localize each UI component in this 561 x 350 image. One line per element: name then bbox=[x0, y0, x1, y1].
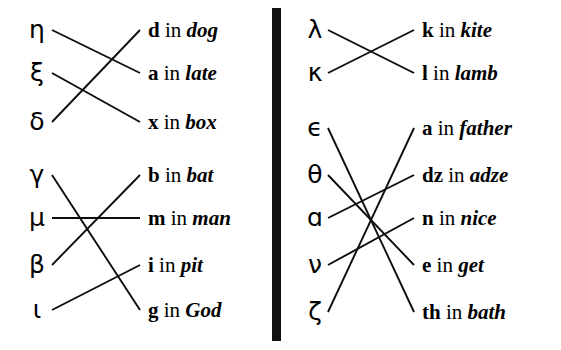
greek-letter: ϵ bbox=[300, 113, 330, 143]
gloss-connector-word: in bbox=[159, 110, 186, 134]
figure-canvas: ηξδd in doga in latex in boxγμβιb in bat… bbox=[0, 0, 561, 350]
greek-letter: ι bbox=[22, 295, 52, 325]
pronunciation-gloss: x in box bbox=[148, 107, 217, 137]
matching-line bbox=[328, 30, 414, 73]
gloss-symbol: e bbox=[422, 253, 431, 277]
matching-line bbox=[52, 265, 140, 310]
matching-line bbox=[328, 218, 414, 265]
gloss-example-word: man bbox=[192, 206, 231, 230]
greek-letter: ξ bbox=[22, 58, 52, 88]
matching-line bbox=[328, 128, 414, 312]
gloss-symbol: g bbox=[148, 298, 159, 322]
greek-letter: θ bbox=[300, 160, 330, 190]
greek-letter: β bbox=[22, 250, 52, 280]
gloss-connector-word: in bbox=[434, 18, 461, 42]
gloss-symbol: n bbox=[422, 206, 434, 230]
matching-line bbox=[328, 30, 414, 73]
gloss-connector-word: in bbox=[428, 61, 455, 85]
gloss-example-word: late bbox=[185, 61, 217, 85]
matching-line bbox=[328, 175, 414, 218]
left-panel: ηξδd in doga in latex in boxγμβιb in bat… bbox=[0, 0, 272, 350]
gloss-symbol: a bbox=[148, 61, 159, 85]
pronunciation-gloss: k in kite bbox=[422, 15, 492, 45]
pronunciation-gloss: b in bat bbox=[148, 160, 213, 190]
greek-letter: μ bbox=[22, 203, 52, 233]
pronunciation-gloss: g in God bbox=[148, 295, 222, 325]
gloss-example-word: get bbox=[458, 253, 484, 277]
matching-line bbox=[328, 128, 414, 312]
gloss-symbol: a bbox=[422, 116, 433, 140]
gloss-connector-word: in bbox=[441, 300, 468, 324]
gloss-connector-word: in bbox=[433, 116, 460, 140]
gloss-symbol: b bbox=[148, 163, 160, 187]
greek-letter: γ bbox=[22, 160, 52, 190]
pronunciation-gloss: a in late bbox=[148, 58, 217, 88]
greek-letter: ν bbox=[300, 250, 330, 280]
gloss-example-word: kite bbox=[461, 18, 493, 42]
matching-line bbox=[328, 175, 414, 265]
pronunciation-gloss: i in pit bbox=[148, 250, 203, 280]
gloss-symbol: th bbox=[422, 300, 441, 324]
panel-divider bbox=[272, 8, 281, 341]
matching-line bbox=[52, 175, 140, 265]
gloss-symbol: x bbox=[148, 110, 159, 134]
gloss-connector-word: in bbox=[434, 206, 461, 230]
gloss-example-word: lamb bbox=[455, 61, 498, 85]
matching-line bbox=[52, 175, 140, 310]
matching-line bbox=[52, 30, 140, 73]
gloss-example-word: God bbox=[185, 298, 221, 322]
pronunciation-gloss: m in man bbox=[148, 203, 231, 233]
greek-letter: ɑ bbox=[300, 203, 330, 233]
gloss-connector-word: in bbox=[431, 253, 458, 277]
greek-letter: δ bbox=[22, 107, 52, 137]
gloss-symbol: dz bbox=[422, 163, 443, 187]
gloss-example-word: bat bbox=[187, 163, 214, 187]
right-panel: λκk in kitel in lambϵθɑνζa in fatherdz i… bbox=[288, 0, 561, 350]
pronunciation-gloss: l in lamb bbox=[422, 58, 498, 88]
gloss-example-word: pit bbox=[181, 253, 203, 277]
gloss-connector-word: in bbox=[159, 298, 186, 322]
gloss-connector-word: in bbox=[166, 206, 193, 230]
pronunciation-gloss: th in bath bbox=[422, 297, 506, 327]
gloss-connector-word: in bbox=[159, 61, 186, 85]
pronunciation-gloss: a in father bbox=[422, 113, 512, 143]
gloss-symbol: m bbox=[148, 206, 166, 230]
gloss-example-word: bath bbox=[468, 300, 507, 324]
pronunciation-gloss: dz in adze bbox=[422, 160, 508, 190]
gloss-example-word: nice bbox=[461, 206, 497, 230]
gloss-connector-word: in bbox=[443, 163, 470, 187]
greek-letter: κ bbox=[300, 58, 330, 88]
pronunciation-gloss: e in get bbox=[422, 250, 484, 280]
gloss-connector-word: in bbox=[154, 253, 181, 277]
greek-letter: λ bbox=[300, 15, 330, 45]
gloss-example-word: adze bbox=[470, 163, 509, 187]
gloss-example-word: father bbox=[459, 116, 512, 140]
gloss-symbol: d bbox=[148, 18, 160, 42]
pronunciation-gloss: d in dog bbox=[148, 15, 218, 45]
pronunciation-gloss: n in nice bbox=[422, 203, 497, 233]
matching-line bbox=[52, 73, 140, 122]
gloss-example-word: dog bbox=[187, 18, 219, 42]
gloss-connector-word: in bbox=[160, 163, 187, 187]
gloss-connector-word: in bbox=[160, 18, 187, 42]
greek-letter: η bbox=[22, 15, 52, 45]
gloss-symbol: k bbox=[422, 18, 434, 42]
matching-line bbox=[52, 30, 140, 122]
greek-letter: ζ bbox=[300, 297, 330, 327]
gloss-example-word: box bbox=[185, 110, 217, 134]
